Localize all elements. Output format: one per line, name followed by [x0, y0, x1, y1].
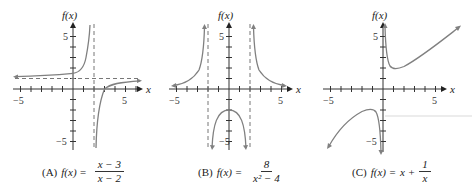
caption-b: (B) f(x) = 8 x² − 4: [198, 158, 283, 185]
curve-right-branch: [385, 26, 458, 69]
curve-arrow-icon: [210, 145, 215, 150]
fraction: 8 x² − 4: [250, 158, 283, 185]
caption-c: (C) f(x) = x + 1 x: [352, 158, 431, 185]
y-tick-label-5: 5: [373, 31, 378, 42]
curve-arrow-icon: [137, 79, 142, 84]
x-axis-label: x: [295, 83, 301, 95]
y-axis-label: f(x): [372, 9, 388, 22]
denominator: x − 2: [95, 172, 124, 185]
graph-c-plot: f(x) x −5 5 5 −5: [310, 0, 472, 160]
fraction: 1 x: [419, 158, 431, 185]
x-axis-arrow-icon: [137, 86, 143, 92]
y-tick-label-neg5: −5: [219, 136, 230, 147]
y-tick-label-neg5: −5: [366, 136, 377, 147]
graph-panel-c: f(x) x −5 5 5 −5 (C) f(x) = x + 1 x: [310, 0, 472, 192]
y-axis-label: f(x): [62, 9, 78, 22]
function-name: f(x) =: [217, 166, 242, 178]
x-tick-label-5: 5: [122, 95, 127, 106]
x-axis-arrow-icon: [287, 86, 293, 92]
curve-right-branch: [254, 27, 286, 86]
denominator: x: [419, 172, 430, 185]
curve-left-branch: [173, 27, 205, 86]
numerator: 8: [261, 158, 273, 172]
function-name: f(x) =: [371, 166, 396, 178]
curve-arrow-icon: [379, 150, 384, 155]
function-name: f(x) =: [61, 166, 86, 178]
curve-arrow-icon: [251, 24, 256, 29]
caption-label: (B): [198, 166, 213, 178]
curve-arrow-icon: [243, 145, 248, 150]
x-tick-label-neg5: −5: [169, 95, 180, 106]
x-tick-label-neg5: −5: [13, 95, 24, 106]
y-tick-label-neg5: −5: [56, 136, 67, 147]
x-axis-arrow-icon: [441, 86, 447, 92]
y-tick-label-5: 5: [219, 31, 224, 42]
y-axis-arrow-icon: [70, 22, 76, 28]
fraction: x − 3 x − 2: [95, 158, 124, 185]
y-axis-label: f(x): [218, 9, 234, 22]
x-tick-label-5: 5: [278, 95, 283, 106]
caption-a: (A) f(x) = x − 3 x − 2: [42, 158, 124, 185]
caption-label: (C): [352, 166, 367, 178]
curve-arrow-icon: [282, 83, 288, 88]
curve-right-branch: [96, 81, 140, 148]
y-axis-arrow-icon: [226, 22, 232, 28]
caption-label: (A): [42, 166, 57, 178]
y-tick-label-5: 5: [63, 31, 68, 42]
scan-artifact: [385, 115, 472, 117]
curve-left-branch: [15, 25, 90, 77]
x-tick-label-neg5: −5: [323, 95, 334, 106]
graph-panel-b: f(x) x −5 5 5 −5 (B) f(x) = 8 x² − 4: [156, 0, 316, 192]
x-axis-label: x: [449, 83, 455, 95]
numerator: 1: [419, 158, 431, 172]
denominator: x² − 4: [250, 172, 283, 185]
x-axis-label: x: [145, 83, 151, 95]
graph-b-plot: f(x) x −5 5 5 −5: [156, 0, 316, 160]
curve-arrow-icon: [202, 24, 207, 29]
graph-a-plot: f(x) x −5 5 5 −5: [0, 0, 160, 160]
expression-prefix: x +: [400, 166, 415, 178]
x-tick-label-5: 5: [432, 95, 437, 106]
graph-panel-a: f(x) x −5 5 5 −5 (A) f(x) = x − 3 x − 2: [0, 0, 160, 192]
curve-arrow-icon: [171, 83, 177, 88]
numerator: x − 3: [95, 158, 124, 172]
